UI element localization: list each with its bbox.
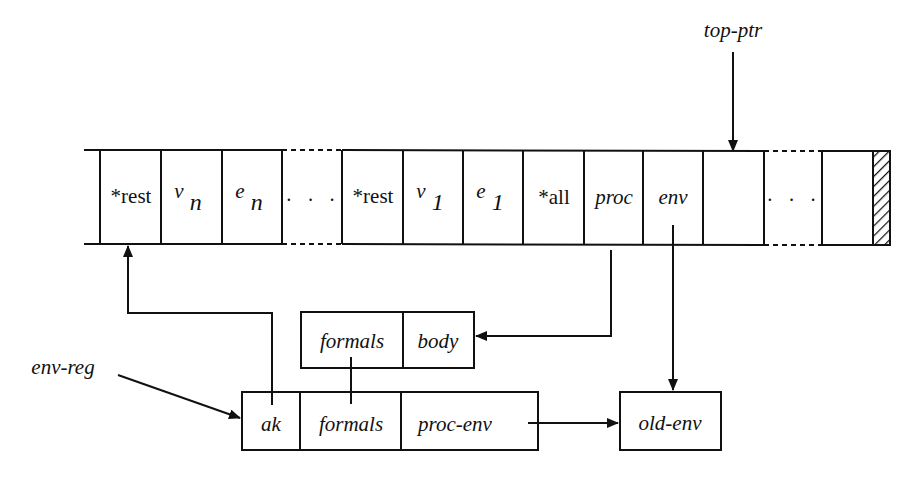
env-reg-label: env-reg [31, 357, 94, 378]
closure-body-field: body [418, 331, 459, 352]
ak-to-rest-arrow [128, 246, 272, 405]
proc-to-body-arrow [476, 250, 611, 336]
closure-formals-field: formals [320, 331, 384, 352]
cell-proc: proc [595, 187, 633, 208]
cell-v-1: v1 [416, 178, 443, 202]
cell-e-1: e1 [476, 178, 503, 202]
cell-v-n: vn [174, 178, 201, 202]
top-ptr-label: top-ptr [704, 20, 762, 41]
cell-rest-1: *rest [353, 186, 394, 207]
cell-e-n: en [235, 178, 262, 202]
env-ak-field: ak [261, 414, 281, 435]
cell-gap-1: · · · [286, 190, 341, 210]
env-formals-field: formals [319, 414, 383, 435]
diagram-wires [0, 0, 924, 479]
env-record-box [242, 392, 538, 450]
old-env-field: old-env [639, 413, 702, 434]
env-proc-env-field: proc-env [418, 414, 492, 435]
stack-hatched-end [873, 151, 890, 245]
env-reg-arrow [118, 375, 240, 418]
cell-env: env [658, 187, 687, 208]
cell-rest-n: *rest [111, 186, 152, 207]
cell-gap-2: · · · [767, 190, 822, 210]
cell-all: *all [538, 187, 570, 208]
